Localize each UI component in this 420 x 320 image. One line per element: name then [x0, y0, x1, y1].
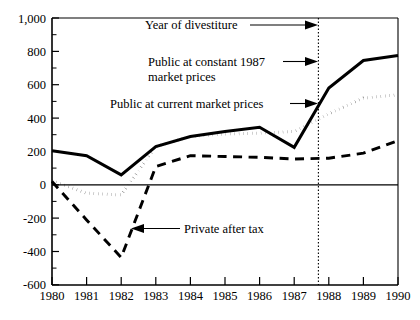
x-tick-label: 1986: [247, 289, 272, 303]
x-axis-labels: 1980 1981 1982 1983 1984 1985 1986 1987 …: [40, 289, 411, 303]
x-tick-label: 1987: [282, 289, 307, 303]
x-tick-label: 1990: [386, 289, 411, 303]
y-tick-label: 400: [27, 112, 46, 126]
y-tick-label: 0: [40, 178, 46, 192]
y-axis-labels: 1,000 800 600 400 200 0 -200 -400 -600: [18, 12, 46, 293]
annotation-year-of-divestiture: Year of divestiture: [145, 18, 318, 32]
x-tick-label: 1988: [316, 289, 341, 303]
arrow-head-right: [305, 21, 318, 30]
x-tick-label: 1984: [178, 289, 204, 303]
x-tick-label: 1981: [74, 289, 99, 303]
annotation-private-after-tax: Private after tax: [131, 222, 265, 236]
x-tick-label: 1983: [143, 289, 168, 303]
y-tick-label: 1,000: [18, 12, 46, 26]
x-tick-label: 1982: [109, 289, 134, 303]
annotation-public-current-market-label: Public at current market prices: [110, 97, 264, 111]
annotation-public-constant-1987-label-line2: market prices: [148, 70, 216, 84]
divestiture-line-chart: 1,000 800 600 400 200 0 -200 -400 -600: [0, 0, 420, 320]
annotation-public-current-market: Public at current market prices: [110, 97, 318, 111]
annotation-private-after-tax-label: Private after tax: [184, 222, 265, 236]
x-tick-label: 1989: [351, 289, 376, 303]
y-tick-label: -400: [23, 245, 46, 259]
chart-container: 1,000 800 600 400 200 0 -200 -400 -600: [0, 0, 420, 320]
y-tick-label: 200: [27, 145, 46, 159]
arrow-head-right: [305, 57, 318, 66]
series-private-after-tax: [52, 141, 398, 258]
annotation-public-constant-1987-label-line1: Public at constant 1987: [148, 55, 265, 69]
x-tick-label: 1980: [40, 289, 65, 303]
y-tick-label: -200: [23, 212, 46, 226]
arrow-head-left: [131, 224, 144, 233]
x-axis-ticks: [52, 277, 398, 285]
annotation-public-constant-1987: Public at constant 1987 market prices: [148, 55, 318, 84]
y-tick-label: 600: [27, 78, 46, 92]
arrow-head-right: [305, 99, 318, 108]
y-tick-label: 800: [27, 45, 46, 59]
x-tick-label: 1985: [213, 289, 238, 303]
annotation-year-of-divestiture-label: Year of divestiture: [145, 18, 238, 32]
